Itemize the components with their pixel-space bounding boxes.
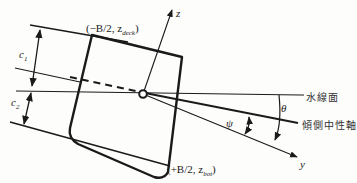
psi-label: ψ <box>226 117 233 129</box>
diagram-lines <box>0 0 357 183</box>
hull-section <box>70 35 182 178</box>
hull-heel-diagram: (−B/2, zdeck) (+B/2, zbot) z y c1 c2 θ ψ… <box>0 0 357 183</box>
z-axis-label: z <box>176 7 180 19</box>
c2-label: c2 <box>11 96 19 111</box>
neutral-axis-label: 傾側中性軸 <box>302 117 357 132</box>
waterline-label: 水線面 <box>306 89 339 104</box>
y-axis-label: y <box>300 158 305 170</box>
theta-label: θ <box>281 102 286 114</box>
deck-corner-label: (−B/2, zdeck) <box>86 22 139 37</box>
bottom-corner-label: (+B/2, zbot) <box>167 163 216 178</box>
c1-label: c1 <box>19 48 27 63</box>
